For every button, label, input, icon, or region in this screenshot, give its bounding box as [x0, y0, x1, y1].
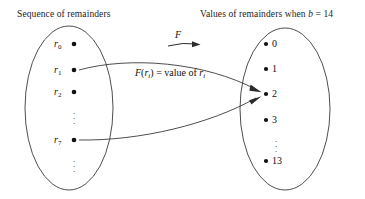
right-dot-0 [264, 42, 268, 46]
left-dot-r1 [72, 68, 77, 73]
right-ellipsis: ... [272, 137, 280, 152]
right-label-2: 2 [272, 88, 277, 99]
left-label-r2: r2 [54, 86, 61, 99]
mapping-arrow-r7-to-2 [79, 96, 262, 140]
right-label-1: 1 [272, 63, 277, 74]
left-label-r0: r0 [54, 38, 61, 51]
left-dot-r2 [72, 90, 77, 95]
right-label-0: 0 [272, 38, 277, 49]
left-set-ellipse [25, 26, 113, 190]
right-dot-13 [264, 159, 268, 163]
left-label-r7: r7 [54, 134, 61, 147]
right-dot-1 [264, 67, 268, 71]
left-ellipsis-upper: ... [70, 109, 78, 124]
right-label-3: 3 [272, 114, 277, 125]
function-symbol-label: F [175, 29, 181, 40]
function-caption: F(ri) = value of ri [135, 67, 205, 80]
right-set-title-prefix: Values of remainders when [200, 9, 308, 19]
mapping-diagram: Sequence of remainders Values of remaind… [0, 0, 365, 199]
left-dot-r0 [72, 42, 77, 47]
left-dot-r7 [72, 138, 77, 143]
right-dot-3 [264, 118, 268, 122]
function-caption-value-sub: i [203, 72, 205, 80]
function-caption-equals: = value of [154, 67, 200, 78]
left-label-r1: r1 [54, 64, 61, 77]
function-arrow-icon [168, 41, 201, 47]
right-set-title: Values of remainders when b = 14 [200, 9, 333, 19]
right-dot-2 [264, 92, 268, 96]
left-set-title: Sequence of remainders [17, 9, 110, 19]
right-set-ellipse [240, 28, 330, 190]
left-ellipsis-lower: ... [70, 157, 78, 172]
right-set-title-suffix: = 14 [313, 9, 333, 19]
right-label-13: 13 [272, 155, 282, 166]
diagram-canvas [0, 0, 365, 199]
